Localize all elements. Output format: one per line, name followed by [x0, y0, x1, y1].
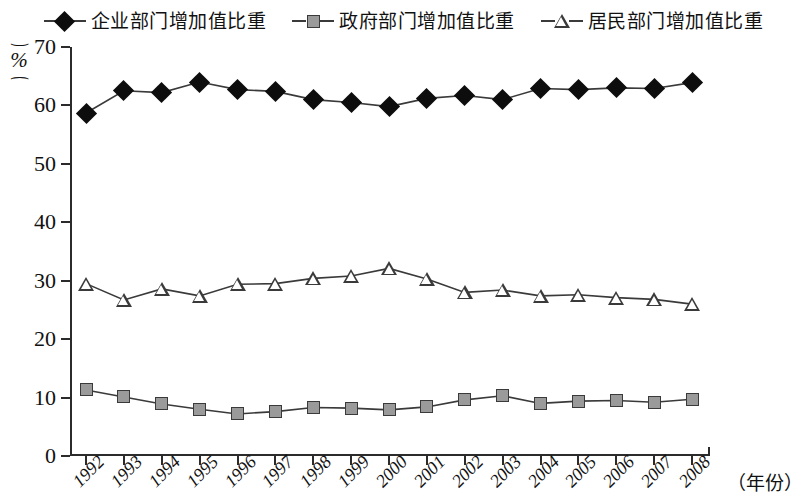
data-point-triangle-1994	[154, 282, 170, 296]
data-point-triangle-2003	[495, 283, 511, 297]
x-tick-label: 2007	[637, 452, 675, 490]
x-tick-label: 1999	[334, 452, 372, 490]
data-point-square-2003	[496, 389, 509, 402]
data-point-triangle-1997	[267, 277, 283, 291]
y-tick	[61, 46, 70, 48]
x-tick-label: 1997	[259, 452, 297, 490]
data-point-square-2000	[383, 403, 396, 416]
data-point-triangle-1993	[116, 293, 132, 307]
x-tick-label: 2002	[448, 452, 486, 490]
y-tick	[61, 221, 70, 223]
x-tick-label: 1995	[183, 452, 221, 490]
data-point-square-1998	[307, 401, 320, 414]
legend-label-government: 政府部门增加值比重	[339, 12, 515, 31]
data-point-triangle-1999	[343, 269, 359, 283]
y-tick	[61, 455, 70, 457]
data-point-square-1992	[80, 383, 93, 396]
x-tick-label: 2000	[372, 452, 410, 490]
data-point-triangle-2008	[684, 297, 700, 311]
data-point-square-2005	[572, 395, 585, 408]
y-tick	[61, 338, 70, 340]
data-point-square-1997	[269, 405, 282, 418]
x-tick-label: 2008	[675, 452, 713, 490]
data-point-square-1993	[117, 390, 130, 403]
x-tick-label: 1996	[221, 452, 259, 490]
data-point-triangle-2000	[381, 261, 397, 275]
x-axis-title: （年份）	[727, 468, 803, 495]
data-point-square-2002	[458, 393, 471, 406]
y-tick-label: 60	[34, 94, 56, 116]
data-point-square-2006	[610, 394, 623, 407]
data-point-square-1996	[231, 407, 244, 420]
sector-value-added-share-chart: 企业部门增加值比重 政府部门增加值比重 居民部门增加值比重 ⌣ % ⌢ （年份）…	[0, 0, 807, 504]
y-axis-unit-label: ⌣ % ⌢	[2, 38, 36, 82]
plot-area: 010203040506070 199219931994199519961997…	[70, 47, 710, 456]
y-tick-label: 50	[34, 153, 56, 175]
x-tick-label: 1998	[297, 452, 335, 490]
legend-label-enterprise: 企业部门增加值比重	[91, 12, 267, 31]
x-tick-label: 2005	[562, 452, 600, 490]
data-point-triangle-2001	[419, 272, 435, 286]
legend-item-enterprise: 企业部门增加值比重	[44, 12, 267, 31]
y-tick	[61, 397, 70, 399]
y-tick-label: 30	[34, 270, 56, 292]
x-tick-label: 1992	[69, 452, 107, 490]
x-tick-label: 2006	[600, 452, 638, 490]
x-tick-label: 2001	[410, 452, 448, 490]
data-point-square-1999	[345, 402, 358, 415]
legend-item-government: 政府部门增加值比重	[292, 12, 515, 31]
data-point-triangle-1992	[78, 277, 94, 291]
y-tick-label: 70	[34, 36, 56, 58]
triangle-marker-icon	[541, 12, 583, 30]
data-point-square-2001	[420, 400, 433, 413]
legend-label-residents: 居民部门增加值比重	[588, 12, 764, 31]
y-unit-paren-bottom: ⌢	[0, 71, 51, 82]
x-tick-label: 2003	[486, 452, 524, 490]
data-point-square-2008	[686, 393, 699, 406]
data-point-triangle-2004	[533, 289, 549, 303]
data-point-triangle-1996	[230, 277, 246, 291]
y-tick	[61, 104, 70, 106]
data-point-triangle-1998	[305, 271, 321, 285]
data-point-triangle-1995	[192, 289, 208, 303]
x-tick-label: 1994	[145, 452, 183, 490]
data-point-triangle-2006	[608, 291, 624, 305]
data-point-square-1995	[193, 403, 206, 416]
y-tick-label: 0	[45, 445, 56, 467]
y-tick	[61, 163, 70, 165]
y-tick-label: 10	[34, 387, 56, 409]
data-point-triangle-2002	[457, 285, 473, 299]
y-tick-label: 40	[34, 211, 56, 233]
x-tick-label: 1993	[107, 452, 145, 490]
data-point-triangle-2005	[570, 288, 586, 302]
data-point-square-2007	[648, 396, 661, 409]
chart-legend: 企业部门增加值比重 政府部门增加值比重 居民部门增加值比重	[0, 6, 807, 36]
y-tick-label: 20	[34, 328, 56, 350]
y-tick	[61, 280, 70, 282]
data-point-triangle-2007	[646, 292, 662, 306]
data-point-square-1994	[155, 397, 168, 410]
square-marker-icon	[292, 12, 334, 30]
x-tick-label: 2004	[524, 452, 562, 490]
data-point-square-2004	[534, 397, 547, 410]
legend-item-residents: 居民部门增加值比重	[541, 12, 764, 31]
diamond-marker-icon	[44, 12, 86, 30]
